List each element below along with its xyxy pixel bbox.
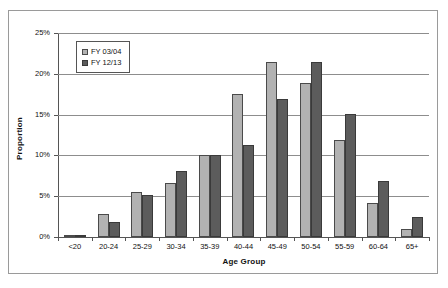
bar — [199, 155, 210, 237]
bar — [210, 155, 221, 237]
bar-group — [395, 33, 429, 237]
x-axis-title: Age Group — [58, 257, 430, 266]
x-tick-label: 45-49 — [260, 243, 294, 251]
x-tick-mark — [429, 237, 430, 241]
bar — [165, 183, 176, 237]
x-tick-mark — [125, 237, 126, 241]
bar — [109, 222, 120, 238]
bar — [311, 62, 322, 237]
bar — [98, 214, 109, 237]
bar-group — [193, 33, 227, 237]
bar-group — [362, 33, 396, 237]
bar-group — [227, 33, 261, 237]
bar-group — [294, 33, 328, 237]
x-axis-line — [58, 237, 430, 238]
legend-item: FY 03/04 — [82, 46, 121, 57]
x-tick-mark — [227, 237, 228, 241]
legend-swatch-icon — [82, 60, 88, 66]
x-tick-label: 20-24 — [92, 243, 126, 251]
bar — [176, 171, 187, 237]
x-tick-mark — [395, 237, 396, 241]
legend-label: FY 12/13 — [91, 59, 121, 67]
x-tick-mark — [159, 237, 160, 241]
x-tick-mark — [193, 237, 194, 241]
bar — [401, 229, 412, 237]
bar-group — [260, 33, 294, 237]
legend-item: FY 12/13 — [82, 57, 121, 68]
bar — [131, 192, 142, 237]
x-tick-mark — [58, 237, 59, 241]
y-tick-label: 0% — [20, 233, 50, 241]
x-tick-label: 55-59 — [328, 243, 362, 251]
x-tick-mark — [260, 237, 261, 241]
bar — [345, 114, 356, 237]
bar — [334, 140, 345, 237]
bar — [412, 217, 423, 237]
legend-swatch-icon — [82, 49, 88, 55]
bar — [142, 195, 153, 237]
x-tick-mark — [362, 237, 363, 241]
bar-group — [159, 33, 193, 237]
bar — [64, 235, 75, 237]
y-axis-title: Proportion — [15, 69, 24, 209]
x-tick-label: 60-64 — [362, 243, 396, 251]
bar — [277, 99, 288, 237]
x-tick-label: <20 — [58, 243, 92, 251]
x-tick-mark — [294, 237, 295, 241]
y-tick-label: 25% — [20, 29, 50, 37]
x-tick-label: 65+ — [395, 243, 429, 251]
bar-group — [125, 33, 159, 237]
bar — [266, 62, 277, 237]
chart-legend: FY 03/04FY 12/13 — [76, 41, 130, 73]
x-tick-label: 30-34 — [159, 243, 193, 251]
bar — [367, 203, 378, 237]
x-tick-label: 25-29 — [125, 243, 159, 251]
bar — [232, 94, 243, 237]
bar — [75, 235, 86, 237]
bar-chart: 0%5%10%15%20%25% <2020-2425-2930-3435-39… — [9, 11, 439, 275]
bar — [243, 145, 254, 237]
y-axis-title-wrap: Proportion — [12, 71, 26, 211]
x-tick-label: 40-44 — [227, 243, 261, 251]
bar — [378, 181, 389, 237]
chart-figure-frame: 0%5%10%15%20%25% <2020-2425-2930-3435-39… — [8, 10, 438, 274]
x-tick-mark — [328, 237, 329, 241]
x-tick-mark — [92, 237, 93, 241]
x-tick-label: 35-39 — [193, 243, 227, 251]
x-tick-label: 50-54 — [294, 243, 328, 251]
bar — [300, 83, 311, 237]
legend-label: FY 03/04 — [91, 48, 121, 56]
bar-group — [328, 33, 362, 237]
